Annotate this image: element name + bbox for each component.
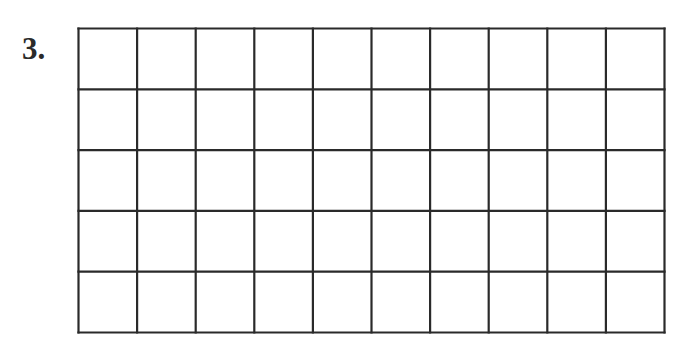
grid-cell bbox=[313, 29, 372, 90]
grid-cell bbox=[547, 272, 606, 333]
grid-cell bbox=[137, 272, 196, 333]
grid-cell bbox=[196, 29, 255, 90]
grid-cell bbox=[254, 272, 313, 333]
grid-cell bbox=[137, 89, 196, 150]
grid-cell bbox=[79, 29, 138, 90]
grid-cell bbox=[489, 150, 548, 211]
grid-cell bbox=[489, 89, 548, 150]
grid-cell bbox=[254, 211, 313, 272]
grid-cell bbox=[313, 272, 372, 333]
grid-cell bbox=[430, 150, 489, 211]
grid-cell bbox=[313, 211, 372, 272]
grid-cell bbox=[137, 150, 196, 211]
grid-cell bbox=[547, 211, 606, 272]
grid-cell bbox=[137, 29, 196, 90]
grid-cell bbox=[196, 89, 255, 150]
grid-cell bbox=[547, 150, 606, 211]
grid-cell bbox=[313, 89, 372, 150]
grid-cell bbox=[547, 89, 606, 150]
grid-cell bbox=[372, 211, 431, 272]
blank-grid bbox=[77, 27, 666, 334]
grid-cell bbox=[254, 29, 313, 90]
grid-svg bbox=[77, 27, 666, 334]
grid-cell bbox=[196, 272, 255, 333]
grid-cell bbox=[606, 272, 665, 333]
grid-cell bbox=[196, 211, 255, 272]
grid-cell bbox=[79, 89, 138, 150]
grid-cell bbox=[372, 89, 431, 150]
grid-cell bbox=[430, 211, 489, 272]
grid-cell bbox=[606, 89, 665, 150]
grid-cell bbox=[606, 29, 665, 90]
grid-cell bbox=[430, 89, 489, 150]
grid-cell bbox=[254, 150, 313, 211]
grid-cell bbox=[372, 272, 431, 333]
grid-cell bbox=[196, 150, 255, 211]
grid-cell bbox=[606, 211, 665, 272]
grid-cell bbox=[489, 29, 548, 90]
grid-cell bbox=[430, 29, 489, 90]
grid-cell bbox=[489, 272, 548, 333]
grid-cell bbox=[606, 150, 665, 211]
problem-number: 3. bbox=[22, 33, 45, 64]
grid-cell bbox=[79, 272, 138, 333]
grid-cell bbox=[547, 29, 606, 90]
grid-cell bbox=[254, 89, 313, 150]
grid-cell bbox=[489, 211, 548, 272]
grid-cell bbox=[372, 29, 431, 90]
grid-cell bbox=[430, 272, 489, 333]
grid-cell bbox=[79, 150, 138, 211]
grid-cell bbox=[137, 211, 196, 272]
grid-cell bbox=[79, 211, 138, 272]
grid-cell bbox=[313, 150, 372, 211]
grid-cell bbox=[372, 150, 431, 211]
